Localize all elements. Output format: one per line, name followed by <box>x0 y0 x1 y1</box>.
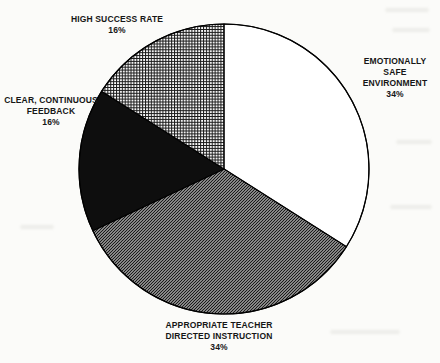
scanned-pie-chart-page: HIGH SUCCESS RATE 16% EMOTIONALLY SAFE E… <box>0 0 440 363</box>
slice-label-clear-continuous-feedback: CLEAR, CONTINUOUS FEEDBACK 16% <box>4 95 98 128</box>
pie-chart-svg <box>0 0 440 363</box>
slice-label-emotionally-safe-environment: EMOTIONALLY SAFE ENVIRONMENT 34% <box>363 56 427 100</box>
slice-label-high-success-rate: HIGH SUCCESS RATE 16% <box>71 14 163 36</box>
slice-label-appropriate-teacher-directed-instruction: APPROPRIATE TEACHER DIRECTED INSTRUCTION… <box>165 320 272 353</box>
